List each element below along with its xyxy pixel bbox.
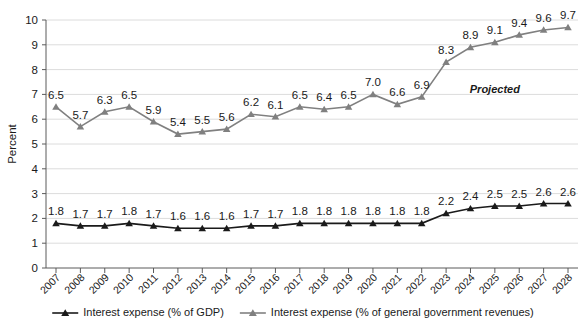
x-tick-label: 2016: [257, 271, 282, 296]
legend: Interest expense (% of GDP)Interest expe…: [52, 306, 534, 318]
x-tick-label: 2019: [330, 271, 355, 296]
x-tick-label: 2024: [452, 271, 477, 296]
legend-item-gdp[interactable]: Interest expense (% of GDP): [52, 306, 224, 318]
series-gdp: 1.81.71.71.81.71.61.61.61.71.71.81.81.81…: [48, 186, 576, 232]
legend-item-revenues[interactable]: Interest expense (% of general governmen…: [240, 306, 534, 318]
x-tick-label: 2008: [62, 271, 87, 296]
data-label: 1.8: [365, 205, 381, 217]
y-tick-label: 7: [32, 88, 38, 100]
x-tick-label: 2013: [184, 271, 209, 296]
x-tick-label: 2023: [428, 271, 453, 296]
data-label: 1.8: [414, 205, 430, 217]
data-label: 6.5: [341, 89, 357, 101]
x-tick-label: 2009: [86, 271, 111, 296]
x-tick-label: 2028: [549, 271, 574, 296]
x-tick-label: 2022: [403, 271, 428, 296]
data-label: 2.2: [438, 195, 454, 207]
data-label: 6.9: [414, 79, 430, 91]
y-tick-label: 4: [32, 163, 39, 175]
data-label: 7.0: [365, 76, 381, 88]
y-tick-label: 2: [32, 212, 38, 224]
x-tick-label: 2007: [37, 271, 62, 296]
data-label: 9.6: [536, 12, 552, 24]
projected-annotation: Projected: [470, 83, 520, 95]
data-label: 2.6: [560, 186, 576, 198]
data-label: 2.5: [511, 188, 527, 200]
data-label: 6.2: [243, 96, 259, 108]
x-tick-label: 2015: [232, 271, 257, 296]
data-label: 1.6: [170, 210, 186, 222]
data-label: 9.7: [560, 9, 576, 21]
x-tick-label: 2020: [354, 271, 379, 296]
x-tick-label: 2021: [379, 271, 404, 296]
data-label: 5.5: [194, 114, 210, 126]
y-tick-label: 1: [32, 237, 38, 249]
y-gridlines: 012345678910: [25, 14, 578, 274]
x-tick-label: 2027: [525, 271, 550, 296]
data-label: 1.6: [219, 210, 235, 222]
data-label: 1.8: [121, 205, 137, 217]
data-label: 9.4: [511, 17, 528, 29]
data-label: 2.4: [462, 190, 479, 202]
data-label: 9.1: [487, 24, 503, 36]
x-tick-label: 2026: [501, 271, 526, 296]
legend-label: Interest expense (% of GDP): [83, 306, 224, 318]
data-label: 1.8: [292, 205, 308, 217]
data-label: 1.7: [243, 208, 259, 220]
data-label: 5.9: [146, 104, 162, 116]
data-label: 6.3: [97, 94, 113, 106]
y-tick-label: 8: [32, 64, 38, 76]
y-tick-label: 9: [32, 39, 38, 51]
x-tick-label: 2011: [135, 271, 160, 296]
x-axis-labels: 2007200820092010201120122013201420152016…: [37, 268, 574, 296]
y-tick-label: 6: [32, 113, 38, 125]
data-label: 1.8: [316, 205, 332, 217]
x-tick-label: 2010: [111, 271, 136, 296]
series-revenues: 6.55.76.36.55.95.45.55.66.26.16.56.46.57…: [48, 9, 576, 137]
data-label: 1.7: [97, 208, 113, 220]
chart-container: 012345678910Percent200720082009201020112…: [0, 0, 586, 331]
x-tick-label: 2017: [281, 271, 306, 296]
y-tick-label: 3: [32, 188, 38, 200]
y-tick-label: 5: [32, 138, 38, 150]
data-label: 1.7: [72, 208, 88, 220]
data-point-marker: [442, 59, 450, 65]
data-label: 6.6: [389, 86, 405, 98]
y-axis-title: Percent: [6, 123, 18, 163]
x-tick-label: 2018: [306, 271, 331, 296]
data-label: 6.5: [48, 89, 64, 101]
data-label: 1.8: [389, 205, 405, 217]
data-point-marker: [52, 103, 60, 109]
data-label: 2.6: [536, 186, 552, 198]
data-label: 6.4: [316, 91, 333, 103]
data-label: 1.8: [341, 205, 357, 217]
x-tick-label: 2014: [208, 271, 233, 296]
data-label: 1.7: [267, 208, 283, 220]
x-tick-label: 2025: [476, 271, 501, 296]
data-label: 1.8: [48, 205, 64, 217]
data-label: 5.6: [219, 111, 235, 123]
y-tick-label: 0: [32, 262, 38, 274]
line-chart: 012345678910Percent200720082009201020112…: [0, 0, 586, 331]
legend-label: Interest expense (% of general governmen…: [271, 306, 534, 318]
data-label: 6.5: [121, 89, 137, 101]
data-label: 6.5: [292, 89, 308, 101]
data-label: 8.3: [438, 44, 454, 56]
data-label: 8.9: [462, 29, 478, 41]
data-label: 5.7: [72, 109, 88, 121]
data-point-marker: [125, 103, 133, 109]
data-label: 5.4: [170, 116, 187, 128]
series-line: [56, 27, 568, 134]
x-tick-label: 2012: [159, 271, 184, 296]
data-label: 1.6: [194, 210, 210, 222]
data-label: 1.7: [146, 208, 162, 220]
data-label: 6.1: [267, 99, 283, 111]
y-tick-label: 10: [25, 14, 38, 26]
data-label: 2.5: [487, 188, 503, 200]
